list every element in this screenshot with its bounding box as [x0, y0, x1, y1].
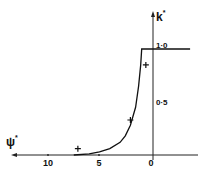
x-tick-label-5: 5	[96, 159, 101, 168]
y-tick-label-1-0: 1·0	[156, 42, 168, 50]
y-axis-superscript: *	[163, 9, 166, 16]
x-tick-10	[47, 154, 49, 156]
x-tick-label-10: 10	[43, 159, 53, 168]
theory-curve	[74, 49, 190, 155]
x-axis-arrow-icon	[11, 153, 17, 157]
x-tick-label-0: 0	[148, 159, 153, 168]
x-axis-symbol: ψ	[6, 135, 15, 149]
x-tick-5	[98, 154, 100, 156]
y-axis-arrow-icon	[151, 11, 155, 17]
data-markers	[75, 62, 149, 152]
chart-plot	[0, 0, 209, 179]
plus-marker-icon	[75, 146, 81, 152]
x-axis-superscript: *	[15, 134, 18, 141]
y-axis-label: k*	[156, 11, 165, 23]
y-tick-label-0-5: 0·5	[156, 99, 168, 107]
plus-marker-icon	[143, 62, 149, 68]
x-axis-label: ψ*	[6, 136, 18, 148]
y-axis-symbol: k	[156, 10, 163, 24]
